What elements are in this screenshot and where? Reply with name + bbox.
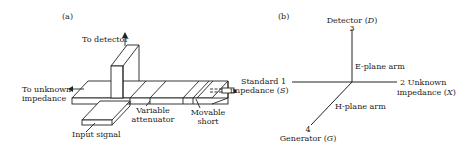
standard-impedance-label-line1: Standard 1 — [230, 77, 286, 86]
generator-label: Generator (G) — [276, 134, 340, 143]
standard-impedance-label-line2: impedance (S) — [230, 86, 286, 95]
h-plane-arm-label: H-plane arm — [335, 102, 386, 111]
port-4-label: 4 — [302, 125, 314, 134]
variable-attenuator-label-line2: attenuator — [130, 115, 176, 124]
diagram-canvas — [0, 0, 469, 149]
panel-b-label: (b) — [278, 12, 289, 21]
movable-short-label-line2: short — [188, 117, 228, 126]
panel-a-label: (a) — [62, 12, 73, 21]
to-unknown-label-line1: To unknown — [22, 85, 71, 94]
movable-short-label-line1: Movable — [188, 108, 228, 117]
e-plane-arm-label: E-plane arm — [355, 62, 405, 71]
to-detector-label: To detector — [82, 35, 128, 44]
variable-attenuator-label-line1: Variable — [130, 106, 176, 115]
port-3-label: 3 — [346, 24, 358, 33]
unknown-impedance-label-line1: 2 Unknown — [400, 78, 446, 87]
input-signal-label: Input signal — [72, 130, 121, 139]
unknown-impedance-label-line2: impedance (X) — [397, 88, 456, 97]
to-unknown-label-line2: impedance — [22, 94, 66, 103]
